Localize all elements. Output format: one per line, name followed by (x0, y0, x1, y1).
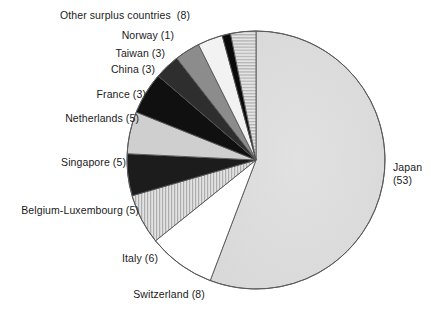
slice-label-belgium-luxembourg: Belgium-Luxembourg (5) (6, 204, 139, 217)
slice-label-other-surplus-countries: Other surplus countries (8) (6, 9, 190, 22)
slice-label-france: France (3) (6, 88, 146, 101)
slice-label-switzerland: Switzerland (8) (104, 288, 234, 301)
slice-label-japan-value: (53) (393, 174, 437, 187)
slice-label-netherlands: Netherlands (5) (6, 112, 139, 125)
slice-label-singapore: Singapore (5) (6, 156, 126, 169)
pie-slices-group (127, 31, 385, 289)
slice-label-china: China (3) (6, 63, 155, 76)
slice-label-norway: Norway (1) (6, 29, 174, 42)
slice-label-taiwan: Taiwan (3) (6, 47, 165, 60)
slice-label-japan-name: Japan (393, 161, 437, 174)
pie-chart-figure: Other surplus countries (8) Norway (1) T… (0, 0, 437, 315)
slice-label-italy: Italy (6) (6, 252, 158, 265)
